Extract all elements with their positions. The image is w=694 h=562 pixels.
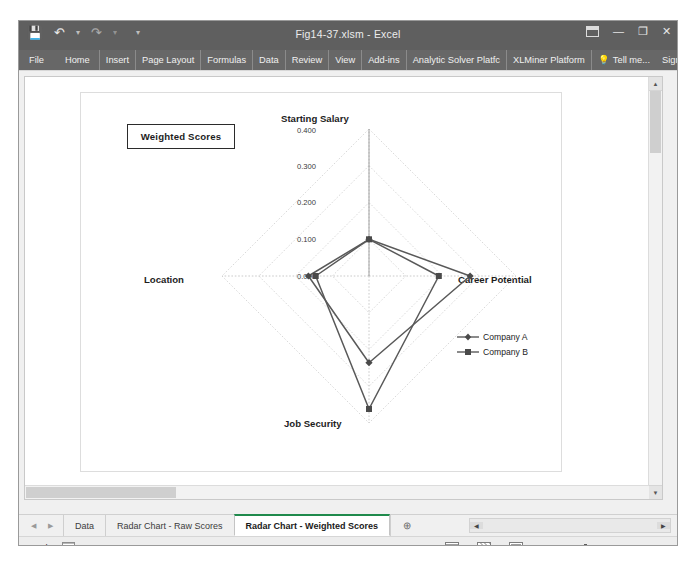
add-sheet-icon[interactable]: ⊕ xyxy=(390,515,423,536)
window-title: Fig14-37.xlsm - Excel xyxy=(19,28,677,40)
chart-legend[interactable]: Company A Company B xyxy=(456,329,528,359)
scroll-down-icon[interactable]: ▼ xyxy=(649,485,662,499)
tab-analytic-solver-platform[interactable]: Analytic Solver Platfc xyxy=(407,50,507,70)
page-layout-view-icon[interactable] xyxy=(477,542,491,547)
horizontal-scrollbar[interactable] xyxy=(25,485,649,499)
sheet-nav-arrows[interactable]: ◀ ▶ xyxy=(19,515,63,536)
record-macro-icon[interactable] xyxy=(62,542,75,546)
tab-file[interactable]: File xyxy=(19,50,53,70)
tab-scroll-left-icon[interactable]: ◀ xyxy=(470,522,483,529)
normal-view-icon[interactable] xyxy=(445,542,459,547)
tab-insert[interactable]: Insert xyxy=(100,50,136,70)
tab-review[interactable]: Review xyxy=(286,50,329,70)
vertical-scrollbar[interactable]: ▲ ▼ xyxy=(648,77,662,499)
sheet-tab-radar-chart-raw-scores[interactable]: Radar Chart - Raw Scores xyxy=(105,515,234,536)
tab-data[interactable]: Data xyxy=(253,50,286,70)
title-bar: 💾 ↶ ▾ ↷ ▾ ▾ Fig14-37.xlsm - Excel — ❐ ✕ xyxy=(19,21,677,50)
sheet-tab-radar-chart-weighted-scores[interactable]: Radar Chart - Weighted Scores xyxy=(234,514,390,536)
minimize-button[interactable]: — xyxy=(613,25,624,37)
tab-scroll-right-icon[interactable]: ▶ xyxy=(657,522,670,529)
page-break-view-icon[interactable] xyxy=(509,542,523,547)
scroll-up-icon[interactable]: ▲ xyxy=(649,77,662,91)
horizontal-scroll-thumb[interactable] xyxy=(26,487,176,498)
zoom-control[interactable]: − + 80% xyxy=(541,543,667,546)
close-button[interactable]: ✕ xyxy=(662,25,671,37)
ribbon-tab-strip: File Home Insert Page Layout Formulas Da… xyxy=(19,50,677,70)
legend-label-company-b: Company B xyxy=(483,347,528,357)
ribbon-display-options-icon[interactable] xyxy=(586,26,599,37)
status-text: Ready xyxy=(19,543,52,546)
legend-item-company-a[interactable]: Company A xyxy=(456,329,528,344)
legend-marker-square-icon xyxy=(456,347,480,357)
restore-button[interactable]: ❐ xyxy=(638,25,648,37)
status-right-group: − + 80% xyxy=(445,542,677,547)
tab-xlminer-platform[interactable]: XLMiner Platform xyxy=(507,50,592,70)
zoom-slider-thumb[interactable] xyxy=(584,544,587,547)
radar-chart[interactable]: Weighted Scores Starting Salary Career P… xyxy=(80,92,562,472)
zoom-in-button[interactable]: + xyxy=(633,543,638,546)
tab-page-layout[interactable]: Page Layout xyxy=(136,50,201,70)
sheet-next-icon[interactable]: ▶ xyxy=(48,522,53,530)
lightbulb-icon: 💡 xyxy=(598,50,610,70)
legend-label-company-a: Company A xyxy=(483,332,527,342)
tab-view[interactable]: View xyxy=(329,50,362,70)
legend-marker-diamond-icon xyxy=(456,332,480,342)
tab-add-ins[interactable]: Add-ins xyxy=(362,50,407,70)
sheet-tab-bar: ◀ ▶ Data Radar Chart - Raw Scores Radar … xyxy=(19,514,677,536)
sheet-canvas[interactable]: Weighted Scores Starting Salary Career P… xyxy=(24,76,663,500)
worksheet-area: Weighted Scores Starting Salary Career P… xyxy=(19,70,677,514)
excel-window: 💾 ↶ ▾ ↷ ▾ ▾ Fig14-37.xlsm - Excel — ❐ ✕ … xyxy=(18,20,678,546)
tab-scroll-bar[interactable]: ◀ ▶ xyxy=(469,518,671,533)
tell-me-label: Tell me... xyxy=(613,55,650,65)
zoom-out-button[interactable]: − xyxy=(541,543,546,546)
zoom-level-label[interactable]: 80% xyxy=(645,543,667,546)
sheet-tab-data[interactable]: Data xyxy=(63,515,105,536)
radar-plot xyxy=(81,93,561,471)
tab-home[interactable]: Home xyxy=(53,50,100,70)
tell-me-box[interactable]: 💡Tell me... xyxy=(592,50,656,70)
vertical-scroll-thumb[interactable] xyxy=(650,91,661,153)
tab-formulas[interactable]: Formulas xyxy=(201,50,253,70)
status-bar: Ready − + 80% xyxy=(19,536,677,546)
legend-item-company-b[interactable]: Company B xyxy=(456,344,528,359)
window-controls: — ❐ ✕ xyxy=(586,25,671,37)
sheet-prev-icon[interactable]: ◀ xyxy=(31,522,36,530)
sign-in-button[interactable]: Sign in xyxy=(656,50,678,70)
